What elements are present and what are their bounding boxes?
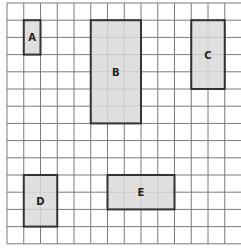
rectangle-label: A <box>28 32 36 43</box>
rectangle-label: E <box>138 187 145 198</box>
rectangle-a: A <box>24 20 41 54</box>
grid-diagram: ABCDE <box>0 0 241 252</box>
rectangle-label: D <box>36 196 44 207</box>
rectangle-b: B <box>91 20 141 123</box>
rectangle-d: D <box>24 175 58 227</box>
rectangle-label: C <box>204 50 211 61</box>
rectangle-c: C <box>191 20 225 89</box>
rectangle-label: B <box>112 67 120 78</box>
rectangle-e: E <box>108 175 175 209</box>
